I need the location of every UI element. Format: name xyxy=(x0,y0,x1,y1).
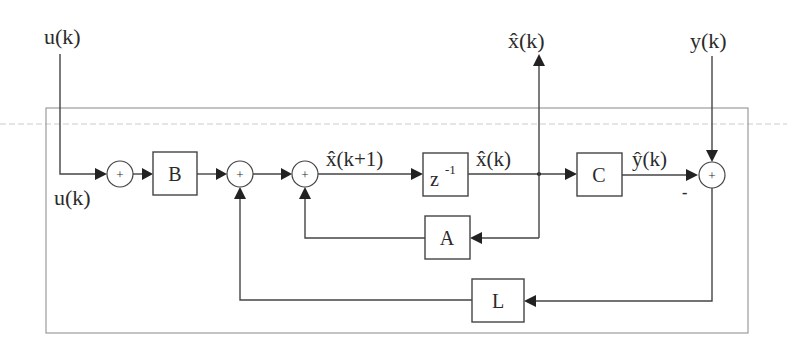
block-A: A xyxy=(425,216,470,259)
arrow-B-to-sum2 xyxy=(197,168,227,180)
svg-text:B: B xyxy=(168,163,181,185)
summing-junction-1: + xyxy=(107,161,133,187)
label-y-input: y(k) xyxy=(690,28,727,53)
svg-text:+: + xyxy=(708,168,715,183)
svg-text:-: - xyxy=(682,184,687,201)
arrow-sum1-to-B xyxy=(133,168,153,180)
input-u-path xyxy=(60,54,107,180)
arrow-A-to-sum3 xyxy=(299,187,425,238)
block-C: C xyxy=(577,153,622,196)
block-B: B xyxy=(153,152,197,195)
summing-junction-3: + xyxy=(292,161,318,187)
block-unit-delay: z -1 xyxy=(423,153,468,196)
label-yhat: ŷ(k) xyxy=(632,147,667,171)
observer-frame xyxy=(46,108,748,333)
label-xhat-next: x̂(k+1) xyxy=(326,147,383,171)
label-xhat-state: x̂(k) xyxy=(476,147,511,171)
svg-text:+: + xyxy=(301,167,308,182)
svg-text:+: + xyxy=(236,167,243,182)
summing-junction-2: + xyxy=(227,161,253,187)
label-u-top: u(k) xyxy=(44,24,81,49)
svg-text:z: z xyxy=(430,168,439,190)
summing-junction-4: + - xyxy=(682,162,725,201)
error-feedback-path xyxy=(524,188,712,307)
label-u-inner: u(k) xyxy=(54,185,91,210)
svg-text:L: L xyxy=(492,290,504,312)
svg-text:-1: -1 xyxy=(445,162,456,177)
svg-text:+: + xyxy=(116,167,123,182)
block-L: L xyxy=(472,279,524,322)
arrow-xhat-to-A xyxy=(470,232,539,244)
svg-text:C: C xyxy=(592,164,605,186)
input-y-path xyxy=(706,56,718,162)
label-xhat-output: x̂(k) xyxy=(508,28,545,53)
output-xhat-path xyxy=(533,54,545,238)
svg-text:A: A xyxy=(440,227,455,249)
observer-block-diagram: + B + + z -1 xyxy=(0,0,787,354)
arrow-sum2-to-sum3 xyxy=(253,168,292,180)
